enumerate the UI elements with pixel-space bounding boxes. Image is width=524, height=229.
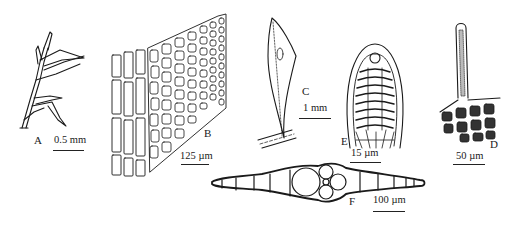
panel-d-label: D <box>490 139 498 150</box>
panel-c-leaf-drawing <box>258 18 296 148</box>
panel-b-label: B <box>204 128 211 139</box>
panel-c-label: C <box>302 86 309 97</box>
panel-a-scale-text: 0.5 mm <box>54 134 86 145</box>
panel-a-label: A <box>34 135 42 146</box>
botanical-figure-plate: A 0.5 mm B 125 µm C 1 mm E 15 µm D 50 µm… <box>0 0 524 229</box>
panel-e-apex-drawing <box>347 44 403 148</box>
panel-e-label: E <box>341 136 348 147</box>
panel-e-scale-text: 15 µm <box>351 147 378 158</box>
panel-f-scale-text: 100 µm <box>373 194 406 205</box>
panel-d-scale-text: 50 µm <box>456 150 483 161</box>
panel-f-scale-bar <box>373 211 405 212</box>
panel-c-scale-bar <box>299 118 331 119</box>
panel-d-hair-drawing <box>440 24 500 143</box>
panel-b-scale-bar <box>181 164 209 165</box>
panel-b-scale-text: 125 µm <box>180 150 213 161</box>
panel-e-scale-bar <box>350 162 381 163</box>
panel-d-scale-bar <box>453 164 485 165</box>
panel-a-scale-bar <box>53 150 84 151</box>
panel-a-shoot-drawing <box>20 32 84 128</box>
panel-c-scale-text: 1 mm <box>303 102 327 113</box>
panel-f-label: F <box>349 196 355 207</box>
illustration-drawings <box>0 0 524 229</box>
